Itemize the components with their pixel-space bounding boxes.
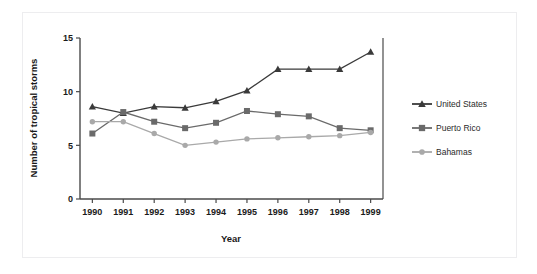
data-point-marker bbox=[243, 87, 250, 93]
x-tick-label: 1992 bbox=[144, 207, 164, 217]
data-point-marker bbox=[90, 119, 95, 124]
data-point-marker bbox=[337, 125, 343, 131]
y-tick-label: 0 bbox=[68, 194, 73, 204]
legend-label: Bahamas bbox=[436, 147, 472, 157]
data-point-marker bbox=[337, 133, 342, 138]
data-point-marker bbox=[151, 119, 157, 125]
line-chart-plot: 051015 199019911992199319941995199619971… bbox=[23, 13, 516, 257]
data-point-marker bbox=[275, 111, 281, 117]
data-point-marker bbox=[121, 119, 126, 124]
legend-item-bahamas[interactable]: Bahamas bbox=[412, 147, 472, 157]
data-point-marker bbox=[306, 113, 312, 119]
data-point-marker bbox=[244, 136, 249, 141]
x-tick-label: 1998 bbox=[330, 207, 350, 217]
y-axis-tick-labels: 051015 bbox=[63, 33, 73, 204]
data-point-marker bbox=[367, 48, 374, 54]
series-line bbox=[92, 52, 370, 113]
series-line bbox=[92, 122, 370, 146]
data-point-marker bbox=[152, 131, 157, 136]
x-axis-title: Year bbox=[221, 233, 241, 244]
data-point-marker bbox=[182, 143, 187, 148]
series-line bbox=[92, 111, 370, 134]
x-axis-tick-labels: 1990199119921993199419951996199719981999 bbox=[82, 207, 380, 217]
data-point-marker bbox=[89, 103, 96, 109]
data-point-marker bbox=[120, 109, 126, 115]
x-tick-label: 1999 bbox=[361, 207, 381, 217]
x-tick-label: 1995 bbox=[237, 207, 257, 217]
legend-label: United States bbox=[436, 99, 487, 109]
x-tick-label: 1990 bbox=[82, 207, 102, 217]
y-tick-label: 10 bbox=[63, 87, 73, 97]
data-point-marker bbox=[419, 149, 425, 155]
data-point-marker bbox=[182, 125, 188, 131]
x-tick-label: 1994 bbox=[206, 207, 226, 217]
data-point-marker bbox=[306, 134, 311, 139]
data-point-marker bbox=[213, 139, 218, 144]
chart-legend: United StatesPuerto RicoBahamas bbox=[412, 99, 487, 157]
legend-item-puerto-rico[interactable]: Puerto Rico bbox=[412, 123, 481, 133]
x-tick-label: 1993 bbox=[175, 207, 195, 217]
data-point-marker bbox=[368, 130, 373, 135]
axis-lines bbox=[80, 38, 383, 199]
chart-frame: 051015 199019911992199319941995199619971… bbox=[22, 12, 517, 258]
y-axis-title: Number of tropical storms bbox=[28, 59, 39, 178]
legend-item-united-states[interactable]: United States bbox=[412, 99, 487, 109]
legend-label: Puerto Rico bbox=[436, 123, 481, 133]
series-puerto-rico bbox=[89, 108, 373, 137]
y-tick-label: 5 bbox=[68, 141, 73, 151]
data-point-marker bbox=[244, 108, 250, 114]
x-tick-label: 1997 bbox=[299, 207, 319, 217]
chart-figure: 051015 199019911992199319941995199619971… bbox=[0, 0, 537, 274]
y-tick-label: 15 bbox=[63, 33, 73, 43]
data-point-marker bbox=[419, 125, 425, 131]
data-series-layer bbox=[89, 48, 374, 148]
data-point-marker bbox=[213, 120, 219, 126]
x-tick-label: 1991 bbox=[113, 207, 133, 217]
x-tick-label: 1996 bbox=[268, 207, 288, 217]
series-united-states bbox=[89, 48, 374, 116]
data-point-marker bbox=[89, 131, 95, 137]
data-point-marker bbox=[275, 135, 280, 140]
series-bahamas bbox=[90, 119, 374, 148]
